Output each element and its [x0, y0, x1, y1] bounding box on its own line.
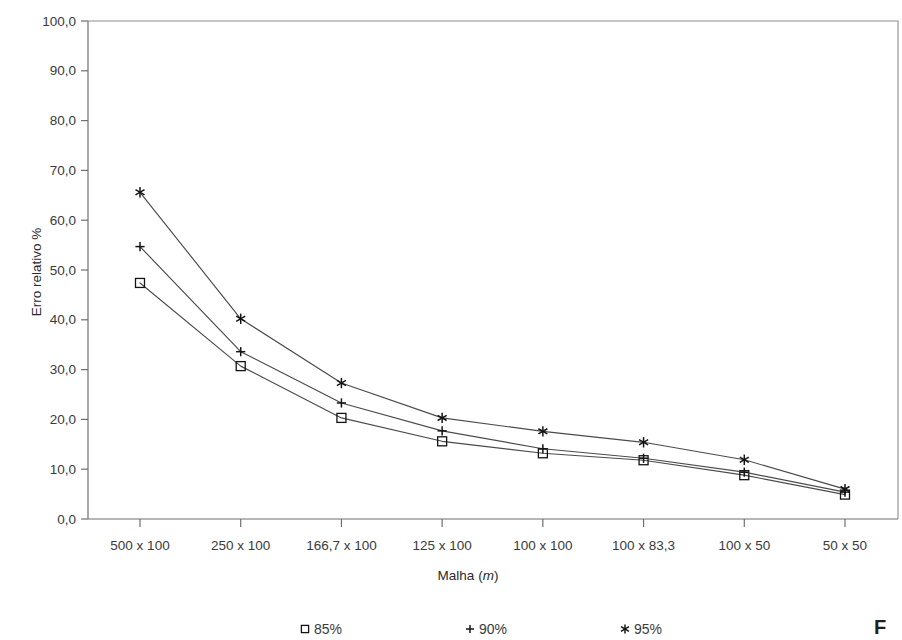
x-tick-label: 250 x 100 [211, 538, 270, 553]
series-layer [135, 187, 849, 499]
x-tick-label: 100 x 100 [513, 538, 572, 553]
x-tick-label: 100 x 50 [718, 538, 770, 553]
y-tick-label: 50,0 [50, 263, 76, 278]
data-point-marker-plus [337, 398, 346, 407]
plot-frame [88, 21, 898, 519]
y-tick-label: 100,0 [42, 14, 76, 29]
figure-caption-partial: F [874, 616, 886, 638]
y-axis-ticks: 0,010,020,030,040,050,060,070,080,090,01… [42, 14, 88, 527]
y-tick-label: 90,0 [50, 63, 76, 78]
y-tick-label: 20,0 [50, 412, 76, 427]
y-tick-label: 70,0 [50, 163, 76, 178]
y-tick-label: 10,0 [50, 462, 76, 477]
series-85% [136, 278, 850, 499]
plot-frame-border [88, 21, 898, 519]
legend-item-95%[interactable]: 95% [621, 621, 662, 637]
series-95% [135, 187, 849, 494]
line-chart: 0,010,020,030,040,050,060,070,080,090,01… [0, 0, 902, 640]
legend-item-85%[interactable]: 85% [301, 621, 342, 637]
legend-label: 90% [479, 621, 507, 637]
data-point-marker-plus [438, 426, 447, 435]
data-point-marker-star [337, 378, 346, 388]
chart-legend: 85%90%95% [301, 621, 662, 637]
y-tick-label: 0,0 [57, 512, 76, 527]
y-axis-title: Erro relativo % [29, 228, 44, 317]
y-tick-label: 80,0 [50, 113, 76, 128]
y-tick-label: 40,0 [50, 312, 76, 327]
series-line-95% [140, 192, 845, 489]
x-tick-label: 166,7 x 100 [306, 538, 377, 553]
y-tick-label: 30,0 [50, 362, 76, 377]
data-point-marker-plus [466, 625, 474, 633]
x-tick-label: 100 x 83,3 [612, 538, 675, 553]
x-axis-ticks: 500 x 100250 x 100166,7 x 100125 x 10010… [110, 519, 867, 553]
x-axis-title: Malha (m) [438, 568, 499, 583]
series-line-85% [140, 283, 845, 495]
figure-root: 0,010,020,030,040,050,060,070,080,090,01… [0, 0, 902, 640]
data-point-marker-star [621, 624, 629, 633]
y-tick-label: 60,0 [50, 213, 76, 228]
legend-label: 95% [634, 621, 662, 637]
legend-label: 85% [314, 621, 342, 637]
data-point-marker-plus [639, 454, 648, 463]
data-point-marker-square [301, 625, 308, 632]
x-tick-label: 125 x 100 [412, 538, 471, 553]
data-point-marker-plus [538, 444, 547, 453]
legend-item-90%[interactable]: 90% [466, 621, 507, 637]
x-tick-label: 500 x 100 [110, 538, 169, 553]
x-tick-label: 50 x 50 [823, 538, 867, 553]
